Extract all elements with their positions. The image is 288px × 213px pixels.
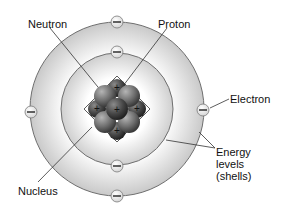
- energy-levels-label-2: levels: [216, 158, 244, 170]
- proton-label: Proton: [158, 18, 190, 30]
- proton-plus: +: [134, 103, 140, 114]
- energy-levels-label-3: (shells): [216, 170, 251, 182]
- nucleus-label: Nucleus: [18, 185, 58, 197]
- proton-plus: +: [114, 82, 120, 93]
- neutron-label: Neutron: [28, 18, 67, 30]
- proton-plus: +: [94, 103, 100, 114]
- energy-levels-label-1: Energy: [216, 146, 251, 158]
- electron-label: Electron: [230, 93, 270, 105]
- proton-plus: +: [114, 104, 120, 115]
- proton-plus: +: [114, 125, 120, 136]
- electron-leader: [210, 99, 229, 108]
